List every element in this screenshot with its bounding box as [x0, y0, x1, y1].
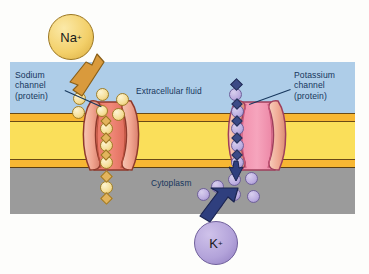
sodium-ion: [116, 93, 129, 106]
potassium-symbol: K: [209, 236, 218, 251]
cytoplasm-region: [10, 168, 355, 214]
extracellular-fluid-label: Extracellular fluid: [136, 86, 202, 96]
potassium-charge: +: [218, 239, 223, 248]
sodium-ion-source: Na+: [48, 14, 94, 60]
potassium-exit-arrow: [227, 160, 245, 182]
membrane-core: [10, 122, 355, 160]
sodium-symbol: Na: [60, 30, 77, 45]
potassium-ion: [245, 172, 258, 185]
sodium-charge: +: [77, 33, 82, 42]
potassium-channel-label: Potassium channel (protein): [294, 70, 335, 101]
sodium-ion: [72, 106, 85, 119]
sodium-channel-label: Sodium channel (protein): [15, 70, 48, 101]
potassium-ion-source: K+: [194, 221, 238, 265]
cytoplasm-label: Cytoplasm: [151, 178, 191, 188]
potassium-ion: [247, 190, 260, 203]
diagram-canvas: Na+ K+ Sodium channel (protein) Potassiu…: [0, 0, 369, 274]
sodium-ion: [112, 108, 125, 121]
